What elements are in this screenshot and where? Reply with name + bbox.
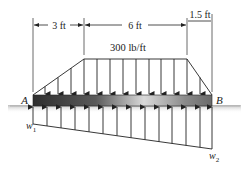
dimension-label-1-5ft: 1.5 ft xyxy=(189,9,210,20)
dimension-label-3ft: 3 ft xyxy=(52,20,66,31)
reaction-label-w2: w2 xyxy=(209,150,220,164)
reaction-label-w1: w1 xyxy=(26,120,37,134)
downward-load-arrows xyxy=(45,59,200,94)
point-label-a: A xyxy=(20,94,28,106)
dimension-6ft: 6 ft xyxy=(85,20,186,31)
diagram-canvas: 3 ft 6 ft 1.5 ft 300 lb/ft xyxy=(0,0,241,173)
dimension-1-5ft: 1.5 ft xyxy=(188,9,211,21)
distributed-load: 300 lb/ft xyxy=(33,42,212,95)
beam xyxy=(33,95,212,106)
load-intensity-label: 300 lb/ft xyxy=(110,42,146,53)
dimension-label-6ft: 6 ft xyxy=(128,20,142,31)
soil-reaction-load xyxy=(33,107,212,149)
dimension-3ft: 3 ft xyxy=(34,20,83,31)
beam-diagram: 3 ft 6 ft 1.5 ft 300 lb/ft xyxy=(0,0,241,173)
point-label-b: B xyxy=(216,94,223,106)
